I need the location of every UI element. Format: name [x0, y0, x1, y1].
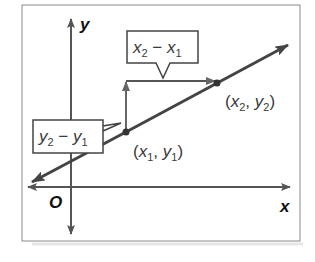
rise-callout-text: y2 − y1 — [38, 127, 88, 148]
point-1-dot — [123, 129, 130, 136]
x-axis-label: x — [279, 197, 291, 216]
origin-label: O — [49, 193, 62, 212]
point-2-dot — [214, 80, 221, 87]
slope-diagram: y x O (x1, y1) (x2, y2) x2 − x1 y2 − y1 — [0, 0, 315, 262]
y-axis-label: y — [79, 15, 91, 34]
run-callout-text: x2 − x1 — [132, 38, 182, 59]
